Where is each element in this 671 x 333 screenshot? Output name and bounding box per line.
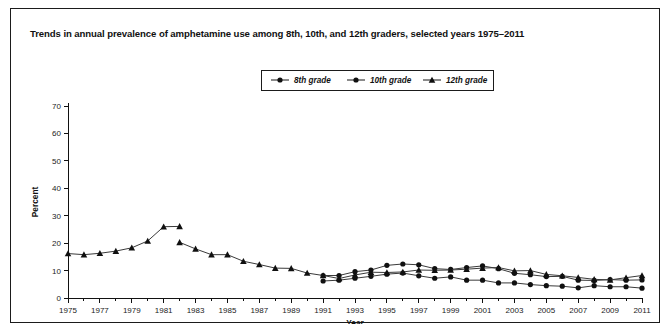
x-tick-label: 2009 — [601, 306, 619, 315]
chart-legend: 8th grade10th grade12th grade — [261, 70, 493, 90]
y-tick-label: 50 — [52, 157, 61, 166]
data-point — [528, 282, 533, 287]
y-tick-label: 0 — [57, 294, 62, 303]
figure-panel: Trends in annual prevalence of amphetami… — [10, 8, 660, 323]
series-path-12th-grade — [68, 226, 180, 254]
x-tick-label: 1975 — [59, 306, 77, 315]
x-tick-label: 1993 — [346, 306, 364, 315]
x-tick-label: 1999 — [442, 306, 460, 315]
data-point — [512, 280, 517, 285]
y-tick-label: 30 — [52, 212, 61, 221]
data-point — [416, 273, 421, 278]
y-tick-label: 60 — [52, 129, 61, 138]
x-tick-label: 2005 — [537, 306, 555, 315]
data-point — [240, 258, 247, 264]
data-point — [608, 284, 613, 289]
x-tick-label: 2001 — [474, 306, 492, 315]
data-point — [560, 284, 565, 289]
x-tick-label: 2003 — [506, 306, 524, 315]
y-tick-label: 20 — [52, 239, 61, 248]
series-12th-grade — [65, 223, 646, 283]
legend-marker-8th-grade — [277, 77, 282, 82]
data-point — [639, 286, 644, 291]
data-point — [623, 284, 628, 289]
amphetamine-prevalence-line-chart: 010203040506070Percent197519771979198119… — [11, 9, 661, 324]
data-point — [432, 276, 437, 281]
data-point — [448, 274, 453, 279]
data-point — [321, 278, 326, 283]
data-point — [176, 239, 183, 245]
y-tick-label: 70 — [52, 102, 61, 111]
data-point — [639, 272, 646, 278]
x-axis-title: Year — [346, 318, 364, 324]
x-tick-label: 1995 — [378, 306, 396, 315]
data-point — [128, 245, 135, 251]
x-tick-label: 1979 — [123, 306, 141, 315]
y-tick-label: 10 — [52, 267, 61, 276]
data-point — [480, 278, 485, 283]
x-tick-label: 1981 — [155, 306, 173, 315]
legend-label-8th-grade: 8th grade — [294, 76, 331, 85]
legend-label-10th-grade: 10th grade — [370, 76, 412, 85]
x-tick-label: 1985 — [219, 306, 237, 315]
legend-label-12th-grade: 12th grade — [446, 76, 488, 85]
data-point — [496, 280, 501, 285]
y-tick-label: 40 — [52, 184, 61, 193]
x-tick-label: 2011 — [633, 306, 651, 315]
data-point — [192, 246, 199, 252]
legend-marker-10th-grade — [353, 77, 358, 82]
x-tick-label: 2007 — [569, 306, 587, 315]
data-point — [592, 283, 597, 288]
data-point — [400, 261, 405, 266]
data-point — [576, 285, 581, 290]
x-tick-label: 1997 — [410, 306, 428, 315]
data-point — [416, 262, 421, 267]
x-tick-label: 1987 — [250, 306, 268, 315]
x-tick-label: 1983 — [187, 306, 205, 315]
data-point — [544, 283, 549, 288]
data-point — [464, 278, 469, 283]
data-point — [384, 263, 389, 268]
x-tick-label: 1989 — [282, 306, 300, 315]
x-tick-label: 1991 — [314, 306, 332, 315]
x-tick-label: 1977 — [91, 306, 109, 315]
y-axis-title: Percent — [30, 187, 40, 218]
